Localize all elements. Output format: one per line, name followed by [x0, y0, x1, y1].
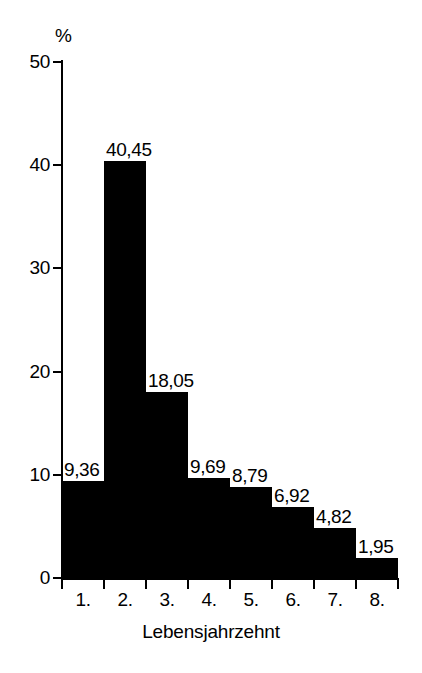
x-tick-label: 3. [146, 589, 188, 611]
x-tick-label: 4. [188, 589, 230, 611]
y-axis-unit-label: % [55, 26, 72, 45]
y-tick-label: 30 [29, 258, 50, 277]
bar-chart-figure: % 01020304050 1.2.3.4.5.6.7.8. 9,3640,45… [0, 0, 422, 673]
y-tick-label: 10 [29, 465, 50, 484]
x-tick-label: 5. [230, 589, 272, 611]
bar-value-label: 9,36 [63, 459, 100, 480]
bar [272, 507, 314, 578]
bar-value-label: 4,82 [315, 506, 352, 527]
y-tick-mark [53, 474, 62, 476]
x-tick-mark [355, 580, 357, 589]
bar [356, 558, 398, 578]
x-tick-mark [313, 580, 315, 589]
x-tick-mark [187, 580, 189, 589]
x-tick-label: 1. [62, 589, 104, 611]
y-tick-label: 20 [29, 362, 50, 381]
x-tick-label: 7. [314, 589, 356, 611]
x-tick-label: 8. [356, 589, 398, 611]
x-tick-label: 2. [104, 589, 146, 611]
y-tick-mark [53, 267, 62, 269]
bar [230, 487, 272, 578]
x-tick-mark [145, 580, 147, 589]
bar [188, 478, 230, 578]
bar-value-label: 6,92 [273, 485, 310, 506]
x-tick-mark [229, 580, 231, 589]
y-tick-mark [53, 577, 62, 579]
bar [104, 161, 146, 578]
bar-value-label: 8,79 [231, 465, 268, 486]
y-tick-mark [53, 371, 62, 373]
bar-value-label: 18,05 [147, 370, 195, 391]
x-tick-mark [271, 580, 273, 589]
bar [146, 392, 188, 578]
bar [62, 481, 104, 578]
x-axis-title: Lebensjahrzehnt [0, 621, 422, 643]
bar-value-label: 9,69 [189, 456, 226, 477]
y-tick-label: 50 [29, 52, 50, 71]
x-tick-mark [61, 580, 63, 589]
y-tick-label: 0 [40, 568, 50, 587]
y-tick-mark [53, 61, 62, 63]
bar-value-label: 40,45 [105, 139, 153, 160]
x-tick-mark [397, 580, 399, 589]
y-tick-label: 40 [29, 155, 50, 174]
y-tick-mark [53, 164, 62, 166]
x-tick-mark [103, 580, 105, 589]
x-tick-label: 6. [272, 589, 314, 611]
bar [314, 528, 356, 578]
bar-value-label: 1,95 [357, 536, 394, 557]
